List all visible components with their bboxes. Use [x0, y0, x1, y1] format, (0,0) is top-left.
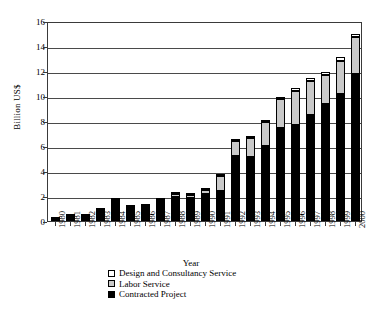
x-axis-tick-label: 1995	[283, 211, 292, 228]
y-axis-tick-label: 4	[19, 168, 45, 177]
x-axis-tick-mark	[325, 222, 326, 226]
bar-segment-labor	[201, 190, 209, 194]
bar-1984[interactable]	[111, 21, 119, 221]
bar-segment-labor	[171, 194, 179, 197]
x-axis-tick-label: 1997	[313, 211, 322, 228]
x-axis-tick-mark	[115, 222, 116, 226]
bar-segment-labor	[321, 75, 329, 104]
bar-1995[interactable]	[276, 21, 284, 221]
y-axis-tick-label: 0	[19, 218, 45, 227]
bar-1997[interactable]	[306, 21, 314, 221]
legend-swatch-icon	[108, 270, 115, 277]
bar-segment-labor	[141, 204, 149, 206]
bar-1994[interactable]	[261, 21, 269, 221]
bar-segment-labor	[231, 141, 239, 156]
bar-1996[interactable]	[291, 21, 299, 221]
x-axis-tick-mark	[205, 222, 206, 226]
bar-segment-design	[336, 57, 344, 61]
x-axis-tick-label: 1984	[118, 211, 127, 228]
bar-segment-design	[351, 34, 359, 38]
legend-item[interactable]: Labor Service	[108, 279, 236, 290]
bar-segment-contracted	[351, 74, 359, 222]
plot-area	[47, 22, 362, 222]
x-axis-tick-mark	[160, 222, 161, 226]
x-axis-tick-mark	[100, 222, 101, 226]
x-axis-tick-mark	[85, 222, 86, 226]
x-axis-tick-label: 1999	[343, 211, 352, 228]
x-axis-tick-label: 1990	[208, 211, 217, 228]
bar-segment-design	[246, 136, 254, 138]
legend-item[interactable]: Design and Consultancy Service	[108, 268, 236, 279]
x-axis-tick-mark	[235, 222, 236, 226]
x-axis-tick-label: 1988	[178, 211, 187, 228]
bar-1992[interactable]	[231, 21, 239, 221]
x-axis-tick-label: 1982	[88, 211, 97, 228]
bar-segment-design	[276, 97, 284, 99]
bar-1989[interactable]	[186, 21, 194, 221]
bar-1985[interactable]	[126, 21, 134, 221]
bar-segment-labor	[156, 198, 164, 200]
bar-1981[interactable]	[66, 21, 74, 221]
chart-figure: Billion US$ 0246810121416 19801981198219…	[0, 0, 382, 312]
bar-segment-design	[201, 188, 209, 190]
x-axis-tick-label: 1980	[58, 211, 67, 228]
x-axis-tick-label: 1989	[193, 211, 202, 228]
bar-1990[interactable]	[201, 21, 209, 221]
bar-segment-contracted	[291, 125, 299, 221]
bar-segment-contracted	[261, 146, 269, 221]
legend-label: Labor Service	[119, 279, 170, 290]
bar-1988[interactable]	[171, 21, 179, 221]
x-axis-tick-label: 1981	[73, 211, 82, 228]
y-axis-tick-label: 10	[19, 93, 45, 102]
bar-segment-labor	[186, 195, 194, 198]
bar-1983[interactable]	[96, 21, 104, 221]
bar-2000[interactable]	[351, 21, 359, 221]
bar-1982[interactable]	[81, 21, 89, 221]
bar-segment-contracted	[276, 128, 284, 221]
bar-segment-labor	[306, 81, 314, 115]
bar-segment-design	[306, 78, 314, 81]
x-axis-tick-mark	[295, 222, 296, 226]
x-axis-tick-label: 1987	[163, 211, 172, 228]
bar-segment-design	[231, 139, 239, 141]
bar-1998[interactable]	[321, 21, 329, 221]
legend-swatch-icon	[108, 280, 115, 287]
bar-segment-design	[291, 88, 299, 91]
x-axis-tick-mark	[265, 222, 266, 226]
bar-segment-labor	[351, 37, 359, 73]
bar-segment-contracted	[306, 115, 314, 221]
bar-1999[interactable]	[336, 21, 344, 221]
bar-1986[interactable]	[141, 21, 149, 221]
x-axis-tick-mark	[130, 222, 131, 226]
x-axis-tick-label: 1986	[148, 211, 157, 228]
x-axis-tick-label: 1996	[298, 211, 307, 228]
bar-1993[interactable]	[246, 21, 254, 221]
x-axis-tick-label: 1994	[268, 211, 277, 228]
bar-segment-labor	[126, 205, 134, 207]
x-axis-tick-label: 1991	[223, 211, 232, 228]
legend-item[interactable]: Contracted Project	[108, 289, 236, 300]
bar-1980[interactable]	[51, 21, 59, 221]
x-axis-tick-mark	[310, 222, 311, 226]
bar-1987[interactable]	[156, 21, 164, 221]
legend-swatch-icon	[108, 291, 115, 298]
x-axis-tick-mark	[145, 222, 146, 226]
bar-1991[interactable]	[216, 21, 224, 221]
bar-segment-labor	[216, 176, 224, 191]
y-axis-tick-label: 14	[19, 43, 45, 52]
y-axis-tick-label: 16	[19, 18, 45, 27]
x-axis-tick-label: 2000	[358, 211, 367, 228]
x-axis-tick-mark	[220, 222, 221, 226]
x-axis-title: Year	[0, 258, 382, 268]
x-axis-tick-label: 1985	[133, 211, 142, 228]
y-axis-tick-mark	[43, 222, 47, 223]
x-axis-tick-mark	[340, 222, 341, 226]
bar-segment-design	[171, 192, 179, 194]
x-axis-tick-label: 1992	[238, 211, 247, 228]
bar-segment-design	[216, 174, 224, 176]
chart-legend: Design and Consultancy ServiceLabor Serv…	[108, 268, 236, 300]
x-axis-tick-mark	[70, 222, 71, 226]
y-axis-tick-label: 2	[19, 193, 45, 202]
bar-segment-design	[111, 198, 119, 200]
bar-segment-labor	[246, 138, 254, 157]
